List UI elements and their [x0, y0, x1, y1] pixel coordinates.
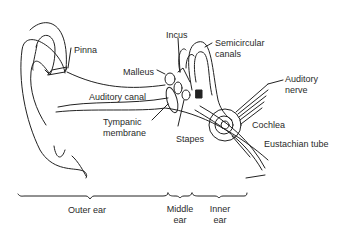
- ear-diagram: Pinna Incus Semicircular canals Malleus …: [0, 0, 344, 233]
- tympanic-membrane-shape: [164, 86, 180, 114]
- region-middle-ear-2: ear: [162, 215, 198, 225]
- label-cochlea: Cochlea: [252, 120, 285, 130]
- canal-lower: [56, 108, 268, 160]
- malleus-leader: [157, 70, 165, 74]
- label-auditory-canal: Auditory canal: [89, 92, 146, 102]
- tympanic-leader: [152, 104, 168, 120]
- middle-ear-brace: [168, 193, 192, 198]
- region-inner-ear-1: Inner: [202, 204, 238, 214]
- pinna-leader: [68, 48, 71, 68]
- label-auditory-nerve-1: Auditory: [285, 74, 318, 84]
- malleus-shape: [165, 73, 175, 85]
- outer-ear-brace: [18, 193, 168, 199]
- label-semicircular-canals-2: canals: [215, 49, 241, 59]
- label-tympanic-membrane-1: Tympanic: [103, 117, 142, 127]
- inner-ear-brace: [192, 193, 247, 198]
- region-middle-ear-1: Middle: [162, 204, 198, 214]
- label-incus: Incus: [166, 30, 188, 40]
- label-auditory-nerve-2: nerve: [285, 85, 308, 95]
- stapes-shape: [182, 90, 190, 100]
- region-inner-ear-2: ear: [202, 215, 238, 225]
- label-tympanic-membrane-2: membrane: [103, 128, 146, 138]
- nerve-leader: [268, 80, 283, 84]
- label-semicircular-canals-1: Semicircular: [215, 38, 265, 48]
- auditory-nerve-fibers: [236, 84, 268, 124]
- label-pinna: Pinna: [74, 45, 97, 55]
- label-eustachian-tube: Eustachian tube: [264, 139, 329, 149]
- label-stapes: Stapes: [176, 134, 204, 144]
- stapes-leader: [178, 100, 184, 126]
- eustachian-leader: [246, 175, 265, 178]
- region-outer-ear: Outer ear: [68, 205, 106, 215]
- label-malleus: Malleus: [123, 67, 154, 77]
